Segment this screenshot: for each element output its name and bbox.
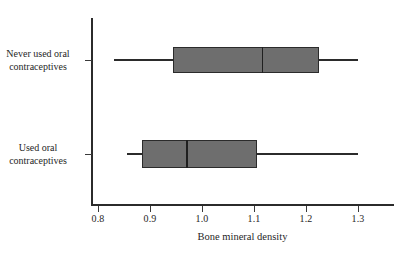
- whisker-lower-used: [127, 153, 143, 155]
- x-axis-tick-label-0.9: 0.9: [130, 213, 170, 224]
- x-axis-tick-1.1: [254, 206, 255, 212]
- boxplot-figure: Never used oral contraceptives Used oral…: [0, 0, 396, 256]
- y-axis-label-never-used: Never used oral contraceptives: [0, 47, 86, 73]
- whisker-upper-used: [257, 153, 358, 155]
- y-axis-label-never-used-line1: Never used oral: [0, 47, 86, 60]
- x-axis-tick-label-1.0: 1.0: [182, 213, 222, 224]
- y-axis-label-used-line2: contraceptives: [0, 154, 86, 167]
- median-used: [186, 140, 188, 168]
- y-axis-tick-never-used: [85, 60, 92, 61]
- y-axis-label-used: Used oral contraceptives: [0, 141, 86, 167]
- x-axis-tick-label-0.8: 0.8: [78, 213, 118, 224]
- x-axis-tick-0.8: [98, 206, 99, 212]
- x-axis-tick-label-1.1: 1.1: [234, 213, 274, 224]
- x-axis-tick-label-1.2: 1.2: [286, 213, 326, 224]
- y-axis-label-used-line1: Used oral: [0, 141, 86, 154]
- median-never-used: [262, 47, 264, 73]
- box-used: [142, 140, 256, 168]
- y-axis-tick-used: [85, 154, 92, 155]
- x-axis-title: Bone mineral density: [91, 231, 394, 242]
- x-axis-tick-0.9: [150, 206, 151, 212]
- x-axis-tick-1.0: [202, 206, 203, 212]
- x-axis-tick-label-1.3: 1.3: [338, 213, 378, 224]
- x-axis-tick-1.2: [306, 206, 307, 212]
- x-axis-tick-1.3: [358, 206, 359, 212]
- box-never-used: [173, 47, 319, 73]
- whisker-lower-never-used: [114, 59, 174, 61]
- whisker-upper-never-used: [319, 59, 358, 61]
- x-axis-line: [91, 204, 394, 206]
- y-axis-label-never-used-line2: contraceptives: [0, 60, 86, 73]
- y-axis-line: [91, 18, 93, 206]
